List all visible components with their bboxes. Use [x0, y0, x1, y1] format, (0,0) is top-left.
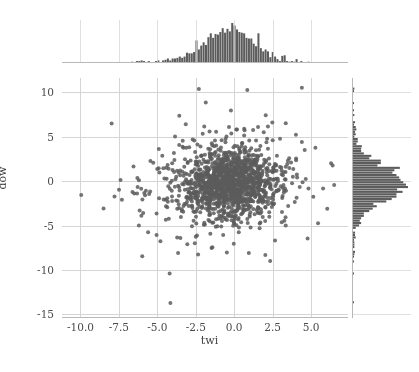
marginal-histogram-y: [352, 78, 411, 318]
x-tick-label: -5.0: [147, 322, 167, 333]
x-tick-label: -2.5: [186, 322, 206, 333]
x-tick-label: 5.0: [303, 322, 320, 333]
marginal-y-canvas: [352, 78, 411, 318]
marginal-x-bottom-spine: [62, 62, 348, 63]
x-tick-label: 0.0: [226, 322, 243, 333]
y-tick-label: 10: [20, 87, 54, 98]
y-axis-title-wrap: dow: [2, 178, 16, 192]
marginal-y-left-spine: [352, 78, 353, 318]
x-tick-label: -10.0: [67, 322, 94, 333]
x-tick-label: 2.5: [264, 322, 281, 333]
scatter-canvas: [62, 78, 348, 318]
marginal-x-canvas: [62, 20, 348, 63]
x-axis-spine: [62, 317, 348, 318]
x-tick-label: -7.5: [109, 322, 129, 333]
y-tick-label: -10: [20, 265, 54, 276]
caption-remnant: [0, 360, 419, 372]
marginal-histogram-x: [62, 20, 348, 63]
joint-plot-figure: -10.0-7.5-5.0-2.50.02.55.0 1050-5-10-15 …: [0, 0, 419, 372]
y-tick-label: -15: [20, 309, 54, 320]
y-tick-label: -5: [20, 220, 54, 231]
y-tick-label: 5: [20, 131, 54, 142]
y-tick-label: 0: [20, 176, 54, 187]
y-axis-title: dow: [0, 166, 9, 189]
scatter-plot-area: [62, 78, 348, 318]
x-axis-title: twi: [0, 334, 419, 347]
